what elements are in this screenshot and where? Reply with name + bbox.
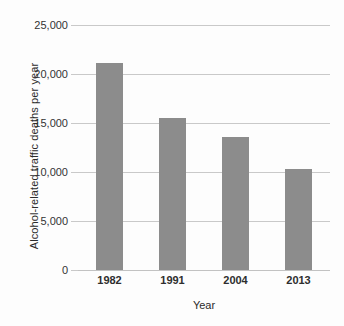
y-axis-tick-labels: 05,00010,00015,00020,00025,000 [0, 25, 68, 270]
bar [222, 137, 249, 270]
x-axis-tick-label: 1982 [97, 274, 121, 286]
y-axis-tick-label: 20,000 [34, 68, 68, 80]
y-axis-tick [71, 270, 78, 271]
x-axis-title: Year [78, 299, 330, 311]
y-axis-tick [71, 221, 78, 222]
bar [159, 118, 186, 270]
y-axis-tick [71, 172, 78, 173]
bar-chart: Alcohol-related traffic deaths per year … [0, 0, 344, 326]
gridline [78, 270, 330, 271]
gridline [78, 25, 330, 26]
y-axis-tick-label: 10,000 [34, 166, 68, 178]
bar [96, 63, 123, 270]
y-axis-tick-label: 5,000 [40, 215, 68, 227]
bar [285, 169, 312, 270]
y-axis-tick-label: 15,000 [34, 117, 68, 129]
x-axis-tick-labels: 1982199120042013 [78, 274, 330, 292]
y-axis-tick-label: 0 [62, 264, 68, 276]
y-axis-tick-label: 25,000 [34, 19, 68, 31]
x-axis-tick-label: 1991 [160, 274, 184, 286]
x-axis-tick-label: 2004 [223, 274, 247, 286]
y-axis-tick [71, 123, 78, 124]
y-axis-tick [71, 74, 78, 75]
x-axis-tick-label: 2013 [286, 274, 310, 286]
plot-area [78, 25, 330, 270]
y-axis-tick [71, 25, 78, 26]
